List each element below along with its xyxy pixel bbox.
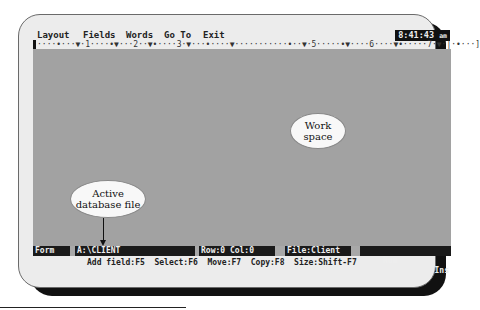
key-help-line: Add field:F5 Select:F6 Move:F7 Copy:F8 S…: [87, 258, 357, 268]
status-mode: Form: [33, 246, 70, 256]
callout-active-database-file: Active database file: [70, 180, 146, 218]
status-path: A:\CLIENT: [75, 246, 195, 256]
clock-time: 8:41:43: [398, 30, 434, 40]
callout-active-line1: Active: [71, 188, 145, 199]
ruler-cursor: [33, 40, 36, 49]
status-keys: Num Ins: [360, 246, 451, 256]
callout-work-space: Work space: [290, 113, 346, 149]
callout-work-line2: space: [291, 131, 345, 142]
status-file: File:Client: [285, 246, 351, 256]
arrow-down-icon: [100, 240, 106, 246]
clock-ampm: am: [439, 32, 447, 40]
callout-active-line2: database file: [71, 199, 145, 210]
status-num: Num: [383, 256, 397, 266]
callout-work-line1: Work: [291, 120, 345, 131]
ruler[interactable]: ····•···▼·1····•▼···2··▼•····3·▼···•····…: [33, 40, 451, 49]
status-position: Row:0 Col:0: [199, 246, 275, 256]
ruler-ticks: ····•···▼·1····•▼···2··▼•····3·▼···•····…: [37, 40, 480, 49]
dos-screen: Layout Fields Words Go To Exit 8:41:43 a…: [33, 27, 451, 269]
status-bar: Form A:\CLIENT Row:0 Col:0 File:Client N…: [33, 246, 451, 256]
divider: [0, 307, 186, 308]
status-ins: Ins: [435, 266, 449, 276]
